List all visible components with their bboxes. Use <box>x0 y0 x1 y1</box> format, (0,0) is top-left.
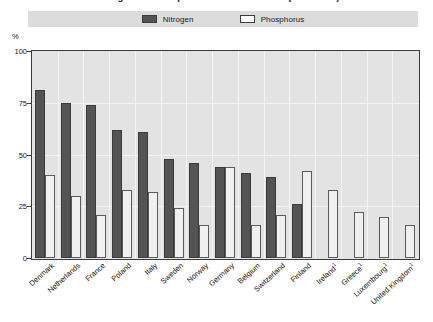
bar-nitrogen[interactable] <box>189 163 199 258</box>
x-axis-label[interactable]: France <box>84 261 107 283</box>
x-axis-label[interactable]: Germany <box>207 261 236 288</box>
y-tick-mark-75 <box>27 103 31 104</box>
footnote-marker: 1 <box>382 261 388 268</box>
bar-nitrogen[interactable] <box>292 204 302 258</box>
bar-group <box>32 51 58 258</box>
bar-phosphorus[interactable] <box>174 208 184 258</box>
bar-group <box>83 51 109 258</box>
bar-group <box>135 51 161 258</box>
bar-nitrogen[interactable] <box>61 103 71 258</box>
bar-group <box>109 51 135 258</box>
bar-phosphorus[interactable] <box>45 175 55 258</box>
bar-nitrogen[interactable] <box>164 159 174 258</box>
bar-nitrogen[interactable] <box>112 130 122 258</box>
bar-phosphorus[interactable] <box>71 196 81 258</box>
bar-phosphorus[interactable] <box>276 215 286 258</box>
bar-phosphorus[interactable] <box>122 190 132 258</box>
bar-groups <box>32 51 418 258</box>
bar-group <box>341 51 367 258</box>
bar-phosphorus[interactable] <box>328 190 338 258</box>
x-axis-label[interactable]: Ireland1 <box>314 261 340 286</box>
bar-group <box>186 51 212 258</box>
bar-phosphorus[interactable] <box>354 212 364 258</box>
bar-phosphorus[interactable] <box>96 215 106 258</box>
bar-nitrogen[interactable] <box>266 177 276 258</box>
bar-group <box>264 51 290 258</box>
y-tick-mark-100 <box>27 51 31 52</box>
bar-phosphorus[interactable] <box>405 225 415 258</box>
x-axis-label[interactable]: Sweden <box>158 261 184 286</box>
bar-nitrogen[interactable] <box>86 105 96 258</box>
bar-phosphorus[interactable] <box>148 192 158 258</box>
bar-nitrogen[interactable] <box>215 167 225 258</box>
bar-group <box>58 51 84 258</box>
y-tick-mark-25 <box>27 206 31 207</box>
bar-group <box>392 51 418 258</box>
y-tick-mark-50 <box>27 155 31 156</box>
footnote-marker: 1 <box>408 261 414 268</box>
bar-group <box>161 51 187 258</box>
bar-phosphorus[interactable] <box>225 167 235 258</box>
bar-phosphorus[interactable] <box>199 225 209 258</box>
x-axis-labels: DenmarkNetherlandsFrancePolandItalySwede… <box>32 259 418 322</box>
chart-plot-wrapper: 0255075100 DenmarkNetherlandsFrancePolan… <box>0 0 433 322</box>
bar-nitrogen[interactable] <box>241 173 251 258</box>
y-tick-mark-0 <box>27 258 31 259</box>
bar-group <box>289 51 315 258</box>
bar-phosphorus[interactable] <box>302 171 312 258</box>
bar-group <box>212 51 238 258</box>
bar-phosphorus[interactable] <box>379 217 389 258</box>
bar-nitrogen[interactable] <box>35 90 45 258</box>
bar-group <box>238 51 264 258</box>
y-axis-ticks <box>0 50 31 259</box>
x-axis-label[interactable]: Italy <box>143 261 159 277</box>
bar-nitrogen[interactable] <box>138 132 148 258</box>
bar-group <box>367 51 393 258</box>
x-axis-label[interactable]: Finland <box>289 261 313 284</box>
bar-group <box>315 51 341 258</box>
footnote-marker: 1 <box>331 261 337 268</box>
footnote-marker: 1 <box>356 261 362 268</box>
x-axis-label[interactable]: Poland <box>110 261 133 283</box>
bar-phosphorus[interactable] <box>251 225 261 258</box>
